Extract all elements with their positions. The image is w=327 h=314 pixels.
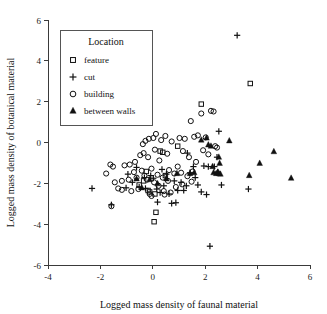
point-circle [159,137,164,142]
point-circle [186,155,191,160]
legend: Locationfeaturecutbuildingbetween walls [60,30,152,125]
point-square [154,210,158,214]
point-triangle [226,137,232,142]
point-plus [245,186,251,192]
point-plus [173,200,179,206]
point-plus [159,166,165,172]
point-plus [201,163,207,169]
point-plus [216,128,222,134]
point-square [199,102,203,106]
x-tick-label: -4 [44,272,52,282]
point-circle [127,162,132,167]
point-triangle [271,148,277,153]
point-circle [163,133,168,138]
x-tick-label: 6 [308,272,313,282]
point-circle [146,155,151,160]
point-plus [154,199,160,205]
y-tick-label: -2 [34,179,42,189]
point-circle [206,152,211,157]
point-triangle [217,160,223,165]
point-circle [199,111,204,116]
point-circle [119,178,124,183]
legend-label: between walls [84,106,136,116]
point-circle [177,135,182,140]
y-tick-label: 6 [37,16,42,26]
point-circle [169,139,174,144]
point-plus [169,200,175,206]
point-circle [129,189,134,194]
y-tick-label: -6 [34,261,42,271]
point-circle [193,159,198,164]
point-circle [126,177,131,182]
point-circle [161,189,166,194]
point-circle [201,148,206,153]
point-circle [189,179,194,184]
point-plus [234,32,240,38]
point-circle [173,184,178,189]
point-triangle [257,160,263,165]
point-plus [171,178,177,184]
scatter-plot-figure: -4-20246-6-4-20246 Locationfeaturecutbui… [0,0,327,314]
point-circle [132,159,137,164]
point-circle [162,192,167,197]
legend-title: Location [88,36,124,47]
point-circle [157,158,162,163]
point-square [175,144,179,148]
point-circle [180,149,185,154]
point-square [152,220,156,224]
x-tick-label: -2 [97,272,105,282]
point-circle [153,131,158,136]
point-plus [125,171,131,177]
plot-canvas: -4-20246-6-4-20246 Locationfeaturecutbui… [0,0,327,314]
y-tick-label: 4 [37,56,42,66]
point-circle [152,147,157,152]
legend-label: cut [84,72,95,82]
point-circle [131,170,136,175]
point-circle [104,171,109,176]
legend-label: building [84,89,115,99]
point-triangle [288,175,294,180]
point-circle [166,167,171,172]
point-plus [89,185,95,191]
legend-label: feature [84,55,109,65]
point-plus [207,243,213,249]
x-tick-label: 0 [151,272,156,282]
x-axis-title: Logged mass density of faunal material [100,299,258,310]
point-circle [182,136,187,141]
y-tick-label: 0 [37,138,42,148]
point-plus [161,183,167,189]
y-tick-label: 2 [37,97,42,107]
x-tick-label: 4 [255,272,260,282]
point-triangle [246,172,252,177]
point-circle [112,180,117,185]
point-circle [149,166,154,171]
point-plus [218,182,224,188]
point-circle [155,172,160,177]
point-plus [195,182,201,188]
point-circle [122,163,127,168]
y-axis-title: Logged mass density of botanical materia… [5,57,16,227]
x-tick-label: 2 [203,272,208,282]
point-circle [188,118,193,123]
point-square [248,81,252,85]
y-tick-label: -4 [34,220,42,230]
point-circle [175,164,180,169]
